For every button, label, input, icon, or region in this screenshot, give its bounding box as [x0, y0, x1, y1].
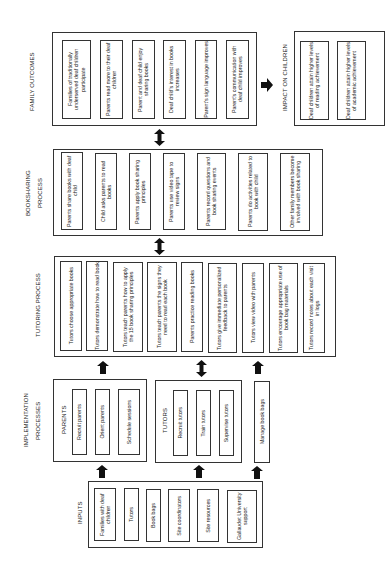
double-arrow-icon — [154, 238, 165, 252]
tutoring-item-8: Tutors encourage appropriate use of book… — [269, 263, 298, 353]
double-arrow-icon — [154, 129, 165, 143]
inputs-label: INPUTS — [74, 495, 88, 531]
arrow-up-icon — [96, 465, 108, 477]
recruit-parents: Recruit parents — [72, 389, 87, 455]
input-item-2: Tutors — [124, 488, 139, 541]
input-item-5: Site resources — [197, 489, 219, 542]
bookshare-item-1: Parents share books with deaf child — [61, 152, 83, 230]
impact-label: IMPACT ON CHILDREN — [279, 35, 293, 121]
arrow-up-icon — [251, 466, 263, 478]
input-item-3: Book bags — [146, 489, 161, 542]
impact-item-2: Deaf children attain higher levels of ac… — [337, 41, 366, 120]
impact-item-1: Deaf children attain higher levels of re… — [300, 41, 329, 120]
tutoring-item-2: Tutors demonstrate how to read book — [86, 261, 108, 351]
tutoring-item-9: Tutors record notes about each visit in … — [303, 263, 325, 353]
family-outcome-6: Parent's communication with deaf child i… — [226, 40, 249, 119]
input-item-4: Site coordinators — [168, 489, 190, 542]
bookshare-item-6: Parents do activities related to book wi… — [238, 153, 268, 231]
tutoring-label: TUTORING PROCESS — [32, 265, 46, 345]
arrow-right-icon — [261, 78, 273, 92]
parents-group-label: PARENTS — [58, 395, 70, 445]
input-item-6: Gallaudet University support — [227, 490, 257, 543]
family-outcome-5: Parent's sign language improves — [195, 40, 217, 119]
supervise-tutors: Supervise tutors — [219, 390, 234, 456]
family-outcome-2: Parents read more to their deaf children — [100, 40, 123, 119]
bookshare-item-7: Other family members become involved wit… — [280, 153, 310, 231]
train-tutors: Train tutors — [196, 390, 211, 456]
double-arrow-icon — [196, 360, 207, 374]
family-outcome-1: Families of traditionally underserved de… — [62, 40, 91, 119]
tutoring-item-3: Tutors teach parents how to apply the 15… — [113, 262, 143, 352]
orient-parents: Orient parents — [95, 389, 110, 455]
bookshare-label: BOOKSHARING PROCESS — [22, 160, 46, 226]
bookshare-item-2: Child asks parents to read books — [95, 153, 117, 230]
family-outcomes-label: FAMILY OUTCOMES — [26, 52, 50, 112]
implementation-label: IMPLEMENTATION PROCESSES — [20, 383, 44, 458]
tutoring-item-4: Tutors teach parents the signs they need… — [147, 262, 177, 352]
tutoring-item-6: Tutors give immediate personalized feedb… — [208, 263, 237, 353]
bookshare-item-3: Parents apply book sharing principles — [129, 153, 151, 230]
recruit-tutors: Recruit tutors — [173, 390, 188, 456]
bookshare-item-5: Parents record questions and book sharin… — [197, 153, 226, 230]
schedule-sessions: Schedule sessions — [118, 389, 140, 455]
tutors-group-label: TUTORS — [159, 400, 171, 440]
arrow-up-icon — [97, 361, 109, 373]
family-outcome-4: Deaf child's interest in books increases — [163, 40, 186, 119]
manage-book-bags: Manage book bags — [254, 381, 270, 463]
arrow-up-icon — [252, 361, 264, 373]
family-outcome-3: Parent and deaf child enjoy sharing book… — [132, 40, 155, 119]
tutoring-item-5: Parents practice reading books — [181, 262, 203, 352]
tutoring-item-1: Tutors choose appropriate books — [60, 261, 82, 351]
tutoring-item-7: Tutors view video with parents — [242, 263, 264, 353]
input-item-1: Families with deaf children — [94, 488, 116, 541]
bookshare-item-4: Parents use video tape to review signs — [163, 153, 185, 230]
arrow-up-icon — [193, 465, 205, 477]
